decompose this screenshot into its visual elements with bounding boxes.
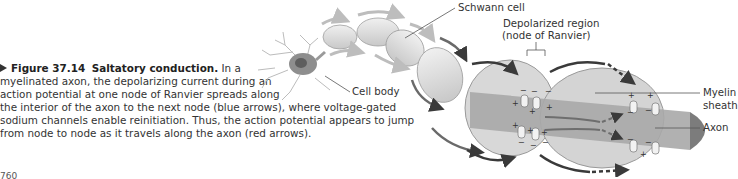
svg-text:+: + bbox=[512, 121, 519, 130]
svg-text:−: − bbox=[518, 138, 525, 147]
label-myelin: Myelin bbox=[703, 87, 736, 99]
label-schwann-cell: Schwann cell bbox=[458, 2, 525, 14]
svg-text:−: − bbox=[531, 87, 538, 96]
label-cell-body: Cell body bbox=[352, 86, 399, 98]
svg-text:−: − bbox=[542, 138, 549, 147]
svg-text:+: + bbox=[546, 103, 553, 112]
label-node-of-ranvier: (node of Ranvier) bbox=[502, 30, 591, 42]
svg-text:+: + bbox=[529, 107, 536, 116]
svg-text:+: + bbox=[512, 99, 519, 108]
svg-text:−: − bbox=[627, 135, 634, 144]
cell-body bbox=[258, 32, 330, 100]
svg-text:−: − bbox=[645, 138, 652, 147]
svg-text:+: + bbox=[647, 91, 654, 100]
svg-text:−: − bbox=[545, 87, 552, 96]
svg-text:−: − bbox=[530, 141, 537, 150]
label-sheath: sheath bbox=[703, 100, 738, 112]
svg-text:+: + bbox=[527, 126, 534, 135]
svg-text:+: + bbox=[628, 91, 635, 100]
svg-text:+: + bbox=[640, 150, 647, 159]
svg-text:−: − bbox=[520, 86, 527, 95]
label-axon: Axon bbox=[703, 122, 728, 134]
svg-text:−: − bbox=[627, 108, 634, 117]
label-depolarized-region: Depolarized region bbox=[503, 18, 599, 30]
svg-text:−: − bbox=[645, 106, 652, 115]
